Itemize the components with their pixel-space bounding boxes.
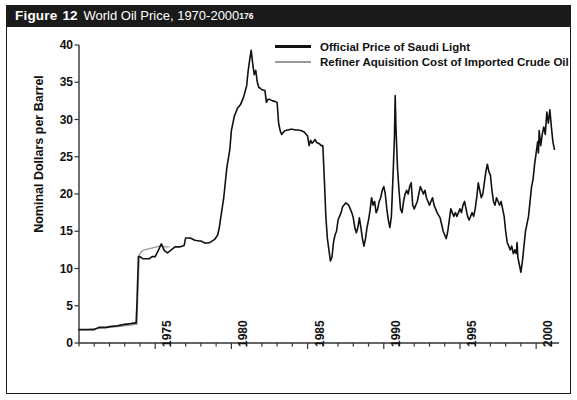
series-line bbox=[79, 50, 554, 329]
y-tick-label: 40 bbox=[47, 38, 73, 52]
figure-title-bar: Figure 12 World Oil Price, 1970-2000176 bbox=[6, 5, 571, 26]
x-tick-label: 1990 bbox=[389, 320, 403, 347]
footnote-marker: 176 bbox=[239, 11, 253, 21]
x-tick-label: 1995 bbox=[465, 320, 479, 347]
page-title: World Oil Price, 1970-2000 bbox=[83, 8, 239, 23]
y-tick-label: 15 bbox=[47, 224, 73, 238]
x-tick-label: 1975 bbox=[160, 320, 174, 347]
y-tick-label: 10 bbox=[47, 262, 73, 276]
x-axis-tick-labels: 197519801985199019952000 bbox=[79, 345, 559, 391]
plot-area bbox=[79, 45, 559, 343]
figure-number: 12 bbox=[62, 8, 77, 23]
series-line bbox=[79, 246, 169, 329]
figure-label: Figure bbox=[15, 8, 57, 23]
x-tick-label: 1980 bbox=[236, 320, 250, 347]
y-tick-label: 0 bbox=[47, 336, 73, 350]
y-tick-label: 35 bbox=[47, 75, 73, 89]
y-tick-label: 20 bbox=[47, 187, 73, 201]
x-tick-label: 2000 bbox=[541, 320, 555, 347]
y-tick-label: 30 bbox=[47, 113, 73, 127]
y-tick-label: 25 bbox=[47, 150, 73, 164]
x-tick-label: 1985 bbox=[313, 320, 327, 347]
chart-plot-svg bbox=[79, 45, 559, 343]
figure-container: Figure 12 World Oil Price, 1970-2000176 … bbox=[0, 0, 577, 400]
chart-frame: Nominal Dollars per Barrel Official Pric… bbox=[6, 26, 571, 394]
y-tick-label: 5 bbox=[47, 299, 73, 313]
y-axis-tick-labels: 0510152025303540 bbox=[41, 45, 73, 343]
